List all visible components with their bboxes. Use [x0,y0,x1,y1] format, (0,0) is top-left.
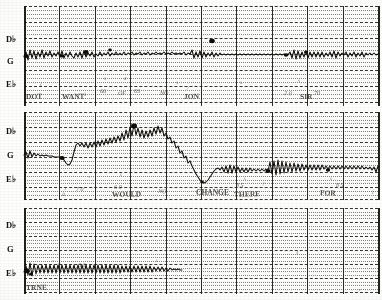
handwritten-note: 8 5 [336,182,344,188]
handwritten-note: 70 [314,90,320,96]
ink-blob-marker [24,269,30,273]
handwritten-note: 7 [262,182,265,187]
handwritten-note: 6S [134,88,140,94]
ink-blob-marker [200,181,204,184]
pen-trace [190,50,288,58]
handwritten-note: s [330,176,332,181]
ink-blob-marker [209,39,215,43]
handwritten-note: 6 0 [78,262,86,268]
ink-blob-marker [60,54,64,57]
handwritten-note: 6 [58,262,61,267]
handwritten-note: s [156,258,158,263]
ink-blob-marker [326,168,330,172]
handwritten-note: 7 0 [76,186,84,192]
handwritten-note: FOR [320,188,336,198]
handwritten-note: s [176,80,178,85]
handwritten-note: s [240,80,242,85]
handwritten-note: JON [184,92,199,101]
ink-blob-marker [59,156,64,160]
handwritten-note: s [130,258,132,263]
handwritten-note: NO [160,90,168,96]
handwritten-note: s [40,82,42,87]
pen-trace [24,263,182,276]
handwritten-note: 2 0 [284,90,292,96]
handwritten-note: 7 [358,288,361,293]
pen-trace [288,50,378,59]
handwritten-note: s [244,176,246,181]
handwritten-note: NO [158,188,167,194]
ink-blob-marker [304,50,308,53]
handwritten-note: 7 [186,86,189,91]
handwritten-note: B [62,192,65,197]
handwritten-note: s [52,258,54,263]
ink-blob-marker [24,54,29,58]
pen-traces-layer [0,0,382,300]
handwritten-note: 4 [296,250,299,255]
ink-blob-marker [29,272,33,275]
chart-recorder-sheet: D♭ G E♭ D♭ G E♭ D♭ G E♭ DOTsWANT1s466OF6… [0,0,382,300]
handwritten-note: TRNE [26,283,47,292]
handwritten-note: CHANGE [196,188,229,197]
pen-trace [268,160,378,175]
ink-blob-marker [265,169,270,173]
handwritten-note: OF [118,90,126,96]
handwritten-note: DOT [26,92,42,101]
handwritten-note: 66 [100,88,106,94]
ink-blob-marker [83,50,88,54]
ink-blob-marker [108,49,112,52]
pen-trace [24,50,190,60]
ink-blob-marker [284,53,288,57]
handwritten-note: WOULD [112,189,141,199]
handwritten-note: s [120,172,122,177]
handwritten-note: I [372,190,374,195]
ink-blob-marker [131,124,137,129]
handwritten-note: s [88,174,90,179]
handwritten-note: s [104,76,106,81]
handwritten-note: 1 [64,186,67,191]
handwritten-note: 4 [124,76,127,81]
handwritten-note: SIR [300,92,313,101]
handwritten-note: WANT [62,92,85,101]
handwritten-note: s [298,78,300,83]
handwritten-note: 8 5 [236,182,244,188]
handwritten-note: 1 [84,92,87,97]
handwritten-note: THERE [234,189,261,199]
pen-trace [24,151,62,158]
pen-trace [190,161,268,183]
pen-trace [62,124,190,165]
